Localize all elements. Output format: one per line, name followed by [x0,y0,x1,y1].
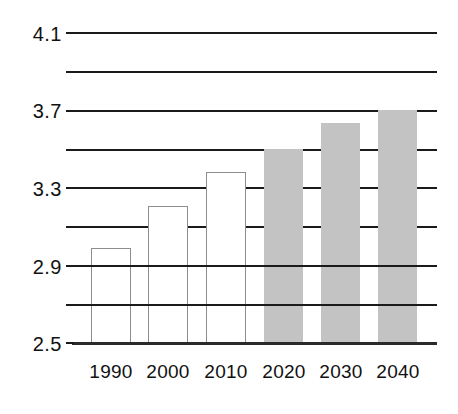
ytick-label-3.7: 3.7 [2,101,62,121]
bar-2010 [206,172,246,343]
xtick-label-2040: 2040 [370,361,426,383]
xtick-label-2020: 2020 [256,361,312,383]
ytick-mark-3.7 [66,110,74,112]
ytick-label-2.9: 2.9 [2,257,62,277]
bar-1990 [91,248,131,343]
ytick-mark-3.1 [66,226,74,228]
ytick-label-4.1: 4.1 [2,24,62,44]
bar-2020 [264,149,303,343]
gridline-2.7 [72,304,437,306]
gridline-4.1 [72,32,437,34]
ytick-mark-3.3 [66,187,74,189]
xtick-label-2000: 2000 [140,361,196,383]
ytick-mark-2.5 [66,342,74,344]
bar-2000 [148,206,188,343]
ytick-mark-3.5 [66,149,74,151]
axis-baseline-2.5 [72,342,437,345]
bar-2030 [321,123,360,343]
ytick-mark-2.9 [66,265,74,267]
gridline-3.9 [72,71,437,73]
ytick-mark-3.9 [66,71,74,73]
xtick-label-2030: 2030 [313,361,369,383]
ytick-mark-2.7 [66,304,74,306]
xtick-label-2010: 2010 [198,361,254,383]
gridline-2.9 [72,265,437,267]
ytick-mark-4.1 [66,32,74,34]
bar-2040 [378,110,417,343]
xtick-label-1990: 1990 [83,361,139,383]
plot-area [0,0,458,414]
ytick-label-3.3: 3.3 [2,179,62,199]
bar-chart: 4.1 3.7 3.3 2.9 2.5 1990 2000 2010 2020 … [0,0,458,414]
ytick-label-2.5: 2.5 [2,334,62,354]
